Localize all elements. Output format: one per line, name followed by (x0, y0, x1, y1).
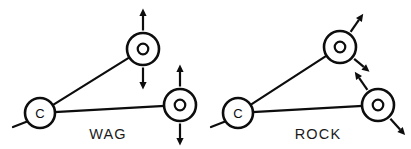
atom-rock-o2 (362, 89, 394, 121)
atom-circle-rock-o1 (324, 31, 356, 63)
arrow-rock-o1-down-right (354, 59, 369, 72)
arrow-head-wag-o1-down (139, 82, 146, 90)
atom-circle-wag-o2 (164, 89, 196, 121)
arrow-wag-o1-up (139, 9, 146, 31)
atom-wag-o2 (164, 89, 196, 121)
atom-circle-wag-o1 (127, 33, 159, 65)
bond-rock-c-to-rock-o1 (250, 55, 328, 105)
arrow-shaft-rock-o1-up-right (351, 20, 359, 32)
bond-wag-c-to-wag-o2 (54, 106, 165, 112)
arrow-wag-o2-up (176, 65, 183, 87)
atom-rock-o1 (324, 31, 356, 63)
bond-rock-c-to-rock-o2 (252, 106, 363, 112)
bond-wag-c-to-wag-o1 (52, 57, 130, 106)
panel-wag: CWAG (13, 9, 196, 146)
arrow-rock-o2-up-left (355, 72, 368, 90)
arrow-head-wag-o2-up (176, 65, 183, 73)
arrow-wag-o1-down (139, 68, 146, 90)
figure-canvas: CWAGCROCK (0, 0, 411, 149)
vibration-modes-figure: CWAGCROCK (0, 0, 411, 149)
atom-symbol-c-wag-c: C (35, 106, 44, 121)
mode-label-rock: ROCK (295, 126, 342, 142)
arrow-wag-o2-down (176, 124, 183, 146)
arrow-shaft-rock-o2-down-right (390, 119, 400, 130)
atom-wag-o1 (127, 33, 159, 65)
arrow-rock-o1-up-right (351, 14, 364, 32)
arrow-head-wag-o2-down (176, 138, 183, 146)
arrow-rock-o2-down-right (390, 119, 405, 135)
atom-wag-c: C (25, 98, 55, 128)
atom-circle-rock-o2 (362, 89, 394, 121)
arrow-head-wag-o1-up (139, 9, 146, 17)
mode-label-wag: WAG (89, 126, 127, 142)
arrow-shaft-rock-o1-down-right (354, 59, 364, 67)
atom-rock-c: C (223, 98, 253, 128)
arrow-shaft-rock-o2-up-left (359, 78, 367, 90)
panel-rock: CROCK (211, 14, 405, 142)
atom-symbol-c-rock-c: C (233, 106, 242, 121)
